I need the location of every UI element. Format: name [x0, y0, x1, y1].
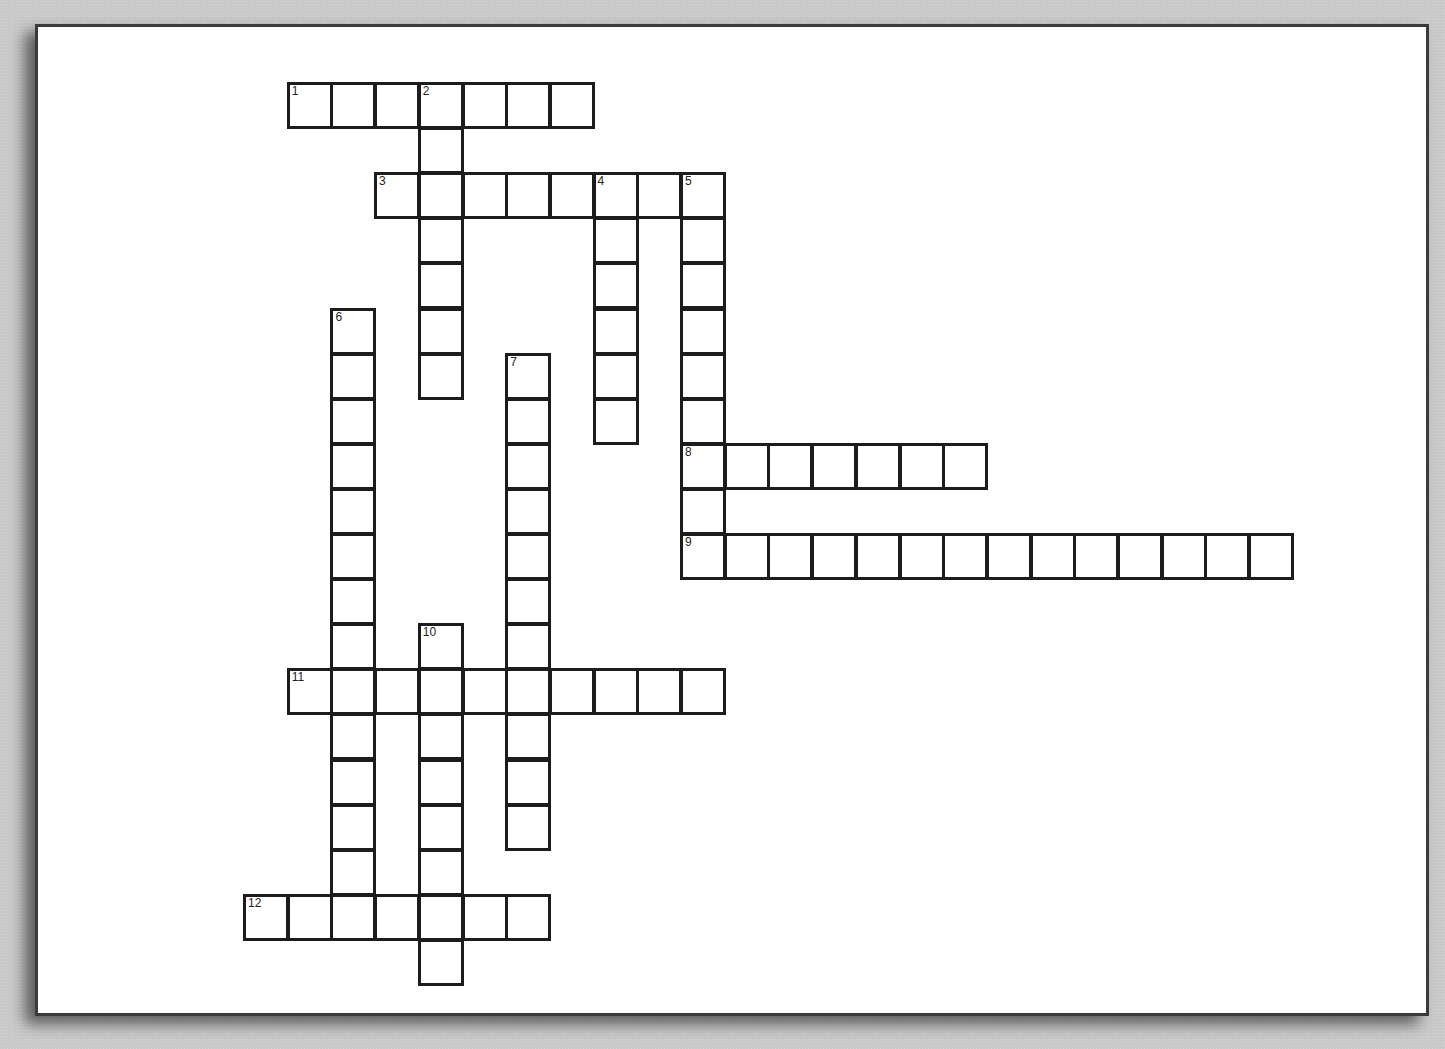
- crossword-cell[interactable]: [505, 668, 551, 715]
- crossword-cell[interactable]: [680, 217, 726, 264]
- crossword-cell[interactable]: [505, 759, 551, 806]
- crossword-cell[interactable]: 7: [505, 353, 551, 400]
- crossword-cell[interactable]: [418, 939, 464, 986]
- crossword-cell[interactable]: [418, 668, 464, 715]
- crossword-cell[interactable]: [899, 533, 945, 580]
- crossword-cell[interactable]: [505, 623, 551, 670]
- crossword-cell[interactable]: [462, 82, 508, 129]
- crossword-cell[interactable]: [593, 668, 639, 715]
- crossword-cell[interactable]: [593, 398, 639, 445]
- crossword-cell[interactable]: [418, 127, 464, 174]
- crossword-cell[interactable]: [1117, 533, 1163, 580]
- crossword-cell[interactable]: [330, 759, 376, 806]
- crossword-cell[interactable]: [593, 353, 639, 400]
- crossword-cell[interactable]: [767, 443, 813, 490]
- crossword-cell[interactable]: [374, 894, 420, 941]
- crossword-cell[interactable]: [418, 308, 464, 355]
- crossword-cell[interactable]: [942, 533, 988, 580]
- crossword-cell[interactable]: [418, 804, 464, 851]
- crossword-cell[interactable]: [462, 172, 508, 219]
- crossword-cell[interactable]: [330, 533, 376, 580]
- crossword-cell[interactable]: 5: [680, 172, 726, 219]
- crossword-cell[interactable]: [986, 533, 1032, 580]
- crossword-cell[interactable]: [636, 668, 682, 715]
- crossword-cell[interactable]: [549, 82, 595, 129]
- crossword-cell[interactable]: [330, 443, 376, 490]
- crossword-cell[interactable]: [942, 443, 988, 490]
- crossword-cell[interactable]: [899, 443, 945, 490]
- crossword-cell[interactable]: [330, 713, 376, 760]
- crossword-cell[interactable]: [505, 894, 551, 941]
- crossword-cell[interactable]: [680, 262, 726, 309]
- crossword-cell[interactable]: [330, 353, 376, 400]
- crossword-cell[interactable]: [855, 533, 901, 580]
- crossword-cell[interactable]: [505, 804, 551, 851]
- crossword-cell[interactable]: [418, 353, 464, 400]
- crossword-cell[interactable]: [505, 398, 551, 445]
- crossword-cell[interactable]: [418, 262, 464, 309]
- crossword-cell[interactable]: [724, 443, 770, 490]
- crossword-cell[interactable]: [374, 668, 420, 715]
- crossword-cell[interactable]: [330, 668, 376, 715]
- crossword-cell[interactable]: [330, 488, 376, 535]
- crossword-cell[interactable]: [418, 172, 464, 219]
- crossword-cell[interactable]: [505, 172, 551, 219]
- crossword-cell[interactable]: [680, 488, 726, 535]
- crossword-cell[interactable]: 9: [680, 533, 726, 580]
- crossword-cell[interactable]: 12: [243, 894, 289, 941]
- crossword-cell[interactable]: [549, 172, 595, 219]
- crossword-cell[interactable]: 3: [374, 172, 420, 219]
- crossword-cell[interactable]: 4: [593, 172, 639, 219]
- crossword-cell[interactable]: [593, 308, 639, 355]
- crossword-cell[interactable]: [636, 172, 682, 219]
- crossword-cell[interactable]: [287, 894, 333, 941]
- crossword-cell[interactable]: 1: [287, 82, 333, 129]
- crossword-cell[interactable]: [680, 353, 726, 400]
- crossword-cell[interactable]: [330, 82, 376, 129]
- crossword-cell[interactable]: [330, 849, 376, 896]
- crossword-cell[interactable]: [330, 894, 376, 941]
- crossword-cell[interactable]: [505, 713, 551, 760]
- crossword-cell[interactable]: [374, 82, 420, 129]
- crossword-cell[interactable]: [680, 308, 726, 355]
- crossword-cell[interactable]: 11: [287, 668, 333, 715]
- crossword-cell[interactable]: [418, 894, 464, 941]
- crossword-cell[interactable]: [330, 623, 376, 670]
- crossword-cell[interactable]: [462, 668, 508, 715]
- crossword-cell[interactable]: [855, 443, 901, 490]
- crossword-cell[interactable]: [1073, 533, 1119, 580]
- crossword-cell[interactable]: [593, 262, 639, 309]
- crossword-cell[interactable]: [330, 398, 376, 445]
- crossword-cell[interactable]: [680, 398, 726, 445]
- crossword-cell[interactable]: [418, 849, 464, 896]
- clue-number: 8: [685, 446, 692, 458]
- crossword-cell[interactable]: [418, 217, 464, 264]
- crossword-cell[interactable]: [549, 668, 595, 715]
- crossword-cell[interactable]: [330, 578, 376, 625]
- crossword-cell[interactable]: [505, 488, 551, 535]
- crossword-cell[interactable]: [418, 759, 464, 806]
- crossword-cell[interactable]: [505, 533, 551, 580]
- crossword-cell[interactable]: [1161, 533, 1207, 580]
- crossword-grid: 123458967101112: [38, 27, 1426, 1013]
- clue-number: 10: [423, 626, 436, 638]
- crossword-cell[interactable]: [1248, 533, 1294, 580]
- crossword-cell[interactable]: 10: [418, 623, 464, 670]
- crossword-cell[interactable]: 6: [330, 308, 376, 355]
- crossword-cell[interactable]: [462, 894, 508, 941]
- crossword-cell[interactable]: 8: [680, 443, 726, 490]
- crossword-cell[interactable]: [593, 217, 639, 264]
- crossword-cell[interactable]: [505, 82, 551, 129]
- crossword-cell[interactable]: [505, 443, 551, 490]
- crossword-cell[interactable]: [1204, 533, 1250, 580]
- crossword-cell[interactable]: [505, 578, 551, 625]
- crossword-cell[interactable]: 2: [418, 82, 464, 129]
- crossword-cell[interactable]: [1030, 533, 1076, 580]
- crossword-cell[interactable]: [811, 443, 857, 490]
- crossword-cell[interactable]: [418, 713, 464, 760]
- crossword-cell[interactable]: [811, 533, 857, 580]
- crossword-cell[interactable]: [330, 804, 376, 851]
- crossword-cell[interactable]: [767, 533, 813, 580]
- crossword-cell[interactable]: [680, 668, 726, 715]
- crossword-cell[interactable]: [724, 533, 770, 580]
